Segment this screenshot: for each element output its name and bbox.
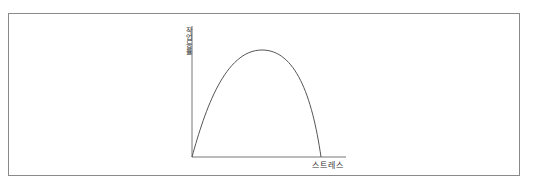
stress-performance-chart bbox=[0, 0, 533, 188]
performance-curve bbox=[192, 50, 321, 157]
y-axis-label: 작업능률 bbox=[181, 27, 191, 55]
x-axis-label: 스트레스 bbox=[312, 159, 344, 170]
